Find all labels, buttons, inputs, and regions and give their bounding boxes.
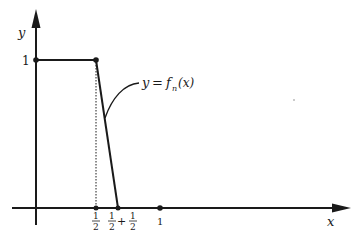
point-0-1 [33,57,39,63]
point-1-0 [157,205,163,211]
x-tick-half-plus: 1 2 + 1 2 [108,211,137,232]
function-graph: y 1 x 1 2 1 2 + 1 2 1 y = f n (x) [0,0,363,234]
svg-text:1: 1 [130,211,136,221]
y-axis-label: y [17,25,26,40]
point-half-0 [94,206,99,211]
function-label: y = f n (x) [141,75,194,93]
x-axis-label: x [327,214,335,229]
svg-text:=: = [152,75,163,90]
y-axis-arrow-icon [32,9,41,28]
svg-text:2: 2 [93,222,99,232]
point-half-plus-0 [116,206,121,211]
svg-text:1: 1 [93,211,99,221]
y-tick-1: 1 [22,54,30,68]
x-tick-1: 1 [157,216,163,227]
svg-text:y: y [141,75,150,90]
svg-text:2: 2 [109,222,115,232]
svg-text:+: + [117,215,126,228]
svg-text:1: 1 [109,211,115,221]
svg-text:n: n [172,84,177,93]
x-axis-arrow-icon [332,204,351,213]
x-tick-half: 1 2 [92,211,100,232]
speck [293,99,295,101]
svg-text:2: 2 [130,222,136,232]
leader-line [105,83,139,118]
point-half-1 [93,57,99,63]
segment-descending [96,60,118,208]
svg-text:(x): (x) [178,76,194,90]
